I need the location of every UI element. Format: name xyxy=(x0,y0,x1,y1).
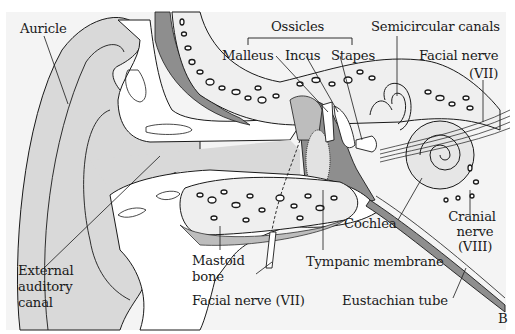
label-auricle: Auricle xyxy=(20,22,67,35)
label-ossicles: Ossicles xyxy=(271,20,324,33)
label-eustachian-tube: Eustachian tube xyxy=(342,294,448,307)
stapes-shape xyxy=(356,136,377,152)
label-stapes: Stapes xyxy=(331,49,375,62)
ossicles-bracket xyxy=(248,38,352,45)
label-mastoid-bone-2: bone xyxy=(192,270,224,283)
panel-letter: B xyxy=(498,312,508,325)
label-cranial-nerve-2: nerve xyxy=(450,225,500,238)
label-facial-nerve-top: Facial nerve xyxy=(419,49,498,62)
label-facial-nerve-top-numeral: (VII) xyxy=(469,67,498,80)
label-semicircular-canals: Semicircular canals xyxy=(371,20,500,33)
cochlea-shape xyxy=(406,121,474,189)
ear-anatomy-diagram: Auricle Ossicles Malleus Incus Stapes Se… xyxy=(0,0,515,334)
label-cranial-nerve-3: (VIII) xyxy=(450,240,500,253)
label-external-auditory-canal-2: auditory xyxy=(18,280,72,293)
label-external-auditory-canal-3: canal xyxy=(18,296,53,309)
label-cochlea: Cochlea xyxy=(344,217,396,230)
label-facial-nerve-bottom: Facial nerve (VII) xyxy=(192,294,305,307)
label-incus: Incus xyxy=(285,49,320,62)
label-cranial-nerve-1: Cranial xyxy=(447,210,497,223)
label-tympanic-membrane: Tympanic membrane xyxy=(306,255,444,268)
label-mastoid-bone-1: Mastoid xyxy=(192,254,245,267)
label-malleus: Malleus xyxy=(222,49,273,62)
label-external-auditory-canal-1: External xyxy=(18,264,73,277)
